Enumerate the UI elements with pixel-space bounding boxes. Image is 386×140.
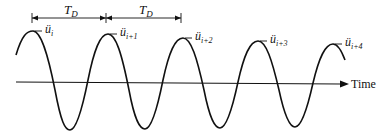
period-label-1: TD [64,2,78,19]
waveform-curve [16,31,345,130]
peak-label-3: üi+3 [270,32,288,48]
peak-label-2: üi+2 [195,29,213,45]
period-arrow-2-left-head [106,16,112,21]
period-arrow-1-left-head [32,16,38,21]
peak-label-0: üi [45,22,53,38]
period-arrow-1-right-head [100,16,106,21]
damped-vibration-diagram: Time TD TD üi üi+1 üi+2 üi+3 üi+4 [0,0,386,140]
time-axis-label: Time [351,77,376,91]
peak-label-1: üi+1 [120,25,138,41]
peak-label-4: üi+4 [345,35,363,51]
time-axis [16,82,340,84]
period-arrow-2-right-head [175,16,181,21]
time-axis-arrowhead [340,81,349,88]
period-label-2: TD [139,2,153,19]
